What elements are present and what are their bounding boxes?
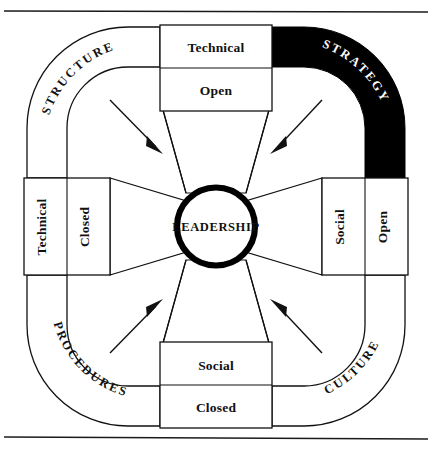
box-bottom-lower-label: Closed <box>196 400 236 415</box>
band-culture-shape <box>272 275 405 426</box>
band-label-culture-text: CULTURE <box>322 337 383 397</box>
band-label-culture: CULTURE <box>322 337 383 397</box>
band-label-procedures-text: PROCEDURES <box>51 320 131 400</box>
band-procedures <box>27 275 160 426</box>
band-label-procedures: PROCEDURES <box>51 320 131 400</box>
box-top-lower-label: Open <box>200 83 233 98</box>
diagram-canvas: Technical Open Social Closed Technical C… <box>0 0 432 453</box>
funnel-top <box>163 110 269 193</box>
arrow-top-left-head <box>146 136 163 154</box>
leadership-core[interactable]: LEADERSHIP <box>172 188 259 266</box>
box-right-lower-label: Open <box>375 211 390 244</box>
arrow-top-right-head <box>270 136 287 154</box>
band-culture <box>272 275 405 426</box>
arrow-bottom-left-head <box>146 299 163 317</box>
arrow-top-left <box>110 100 163 154</box>
band-procedures-shape <box>27 275 160 426</box>
bottom-horizontal-rule <box>4 437 428 439</box>
arrow-bottom-right <box>270 299 322 353</box>
box-left-lower-label: Closed <box>77 207 92 247</box>
arrow-top-right <box>270 100 322 154</box>
box-top-upper-label: Technical <box>188 40 245 55</box>
leadership-quadrant-diagram: Technical Open Social Closed Technical C… <box>0 0 432 453</box>
box-left-upper-label: Technical <box>34 199 49 256</box>
band-label-structure: STRUCTURE <box>39 39 117 117</box>
arrow-bottom-left <box>110 299 163 353</box>
box-right-upper-label: Social <box>332 209 347 245</box>
box-bottom[interactable]: Social Closed <box>160 342 272 428</box>
box-bottom-upper-label: Social <box>198 358 234 373</box>
box-left[interactable]: Technical Closed <box>24 178 110 275</box>
band-label-structure-text: STRUCTURE <box>39 39 117 117</box>
top-horizontal-rule <box>4 11 428 12</box>
funnel-bottom <box>163 260 269 343</box>
arrow-bottom-right-head <box>270 299 287 317</box>
leadership-core-label: LEADERSHIP <box>172 220 259 234</box>
box-top[interactable]: Technical Open <box>160 25 272 111</box>
box-right[interactable]: Social Open <box>322 178 408 275</box>
